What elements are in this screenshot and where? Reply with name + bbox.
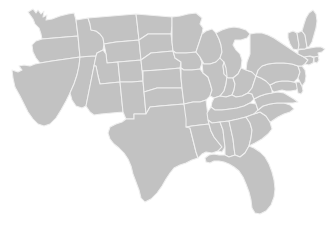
state-CA[interactable] xyxy=(12,57,80,126)
state-NM[interactable] xyxy=(120,81,146,119)
state-TX[interactable] xyxy=(108,104,198,202)
states-layer xyxy=(12,9,325,214)
state-WA[interactable] xyxy=(28,9,78,39)
us-map-container xyxy=(0,0,330,230)
state-AR[interactable] xyxy=(184,100,209,127)
state-CO[interactable] xyxy=(118,60,143,82)
state-WY[interactable] xyxy=(104,40,141,63)
us-map-svg[interactable] xyxy=(0,0,330,230)
